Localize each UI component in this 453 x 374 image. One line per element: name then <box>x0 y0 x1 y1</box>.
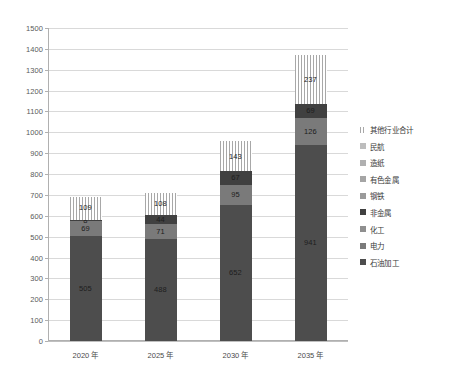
bar-segment-value-label: 69 <box>306 107 315 115</box>
bar-segment-value-label: 109 <box>79 204 92 212</box>
legend-item-label: 石油加工 <box>370 257 399 268</box>
plot-area: 0100200300400500600700800900100011001200… <box>48 28 348 341</box>
bar-segment-value-label: 95 <box>231 191 240 199</box>
legend-item[interactable]: 非金属 <box>360 207 413 218</box>
legend-item-label: 造纸 <box>370 157 384 168</box>
legend-item[interactable]: 有色金属 <box>360 174 413 185</box>
legend-item-label: 其他行业合计 <box>370 124 413 135</box>
chart-container: 0100200300400500600700800900100011001200… <box>0 0 453 374</box>
legend-swatch-icon <box>360 193 366 199</box>
legend-item-label: 钢铁 <box>370 190 384 201</box>
bar-stack[interactable]: 94112669237 <box>295 55 327 341</box>
bar-segment[interactable]: 71 <box>145 224 177 239</box>
bar-segment[interactable]: 126 <box>295 118 327 144</box>
bar-segment[interactable]: 143 <box>220 141 252 171</box>
bar-segment[interactable]: 44 <box>145 215 177 224</box>
legend-swatch-icon <box>360 226 366 232</box>
legend-swatch-icon <box>360 127 366 133</box>
bar-segment-value-label: 71 <box>156 228 165 236</box>
bar-segment-value-label: 237 <box>304 76 317 84</box>
x-axis-tick-label: 2025 年 <box>148 349 174 360</box>
gridline <box>48 341 348 342</box>
bar-segment[interactable]: 108 <box>145 193 177 216</box>
bar-segment-value-label: 126 <box>304 128 317 136</box>
bar-segment[interactable]: 8 <box>70 220 102 222</box>
y-axis-tick-mark <box>45 341 48 342</box>
legend-item[interactable]: 民航 <box>360 141 413 152</box>
bar-segment[interactable]: 67 <box>220 171 252 185</box>
legend-item[interactable]: 其他行业合计 <box>360 124 413 135</box>
bar-segment-value-label: 44 <box>156 216 165 224</box>
legend-item[interactable]: 钢铁 <box>360 190 413 201</box>
bars-layer: 2020 年5056981092025 年48871441082030 年652… <box>48 28 348 341</box>
x-axis-tick-label: 2035 年 <box>298 349 324 360</box>
bar-segment[interactable]: 941 <box>295 145 327 341</box>
bar-segment[interactable]: 69 <box>295 104 327 118</box>
legend-item[interactable]: 石油加工 <box>360 257 413 268</box>
legend-item[interactable]: 造纸 <box>360 157 413 168</box>
legend-swatch-icon <box>360 209 366 215</box>
bar-stack[interactable]: 505698109 <box>70 197 102 341</box>
bar-segment[interactable]: 237 <box>295 55 327 104</box>
legend-item[interactable]: 电力 <box>360 240 413 251</box>
bar-segment[interactable]: 505 <box>70 236 102 341</box>
bar-segment-value-label: 505 <box>79 285 92 293</box>
legend-swatch-icon <box>360 259 366 265</box>
legend-swatch-icon <box>360 176 366 182</box>
legend-item-label: 化工 <box>370 224 384 235</box>
bar-stack[interactable]: 4887144108 <box>145 193 177 341</box>
bar-segment-value-label: 143 <box>229 153 242 161</box>
legend-item-label: 非金属 <box>370 207 392 218</box>
legend-item-label: 有色金属 <box>370 174 399 185</box>
x-axis-tick-label: 2020 年 <box>73 349 99 360</box>
bar-segment-value-label: 67 <box>231 174 240 182</box>
bar-segment-value-label: 108 <box>154 200 167 208</box>
legend-swatch-icon <box>360 143 366 149</box>
chart-legend: 其他行业合计民航造纸有色金属钢铁非金属化工电力石油加工 <box>360 124 413 268</box>
legend-swatch-icon <box>360 160 366 166</box>
bar-segment[interactable]: 109 <box>70 197 102 220</box>
legend-item-label: 电力 <box>370 240 384 251</box>
bar-segment-value-label: 69 <box>81 225 90 233</box>
bar-segment-value-label: 941 <box>304 239 317 247</box>
bar-segment[interactable]: 488 <box>145 239 177 341</box>
bar-stack[interactable]: 6529567143 <box>220 141 252 341</box>
legend-item-label: 民航 <box>370 141 384 152</box>
legend-item[interactable]: 化工 <box>360 224 413 235</box>
bar-segment-value-label: 488 <box>154 286 167 294</box>
bar-segment[interactable]: 69 <box>70 221 102 235</box>
legend-swatch-icon <box>360 243 366 249</box>
bar-segment[interactable]: 652 <box>220 205 252 341</box>
bar-segment[interactable]: 95 <box>220 185 252 205</box>
x-axis-tick-label: 2030 年 <box>223 349 249 360</box>
bar-segment-value-label: 652 <box>229 269 242 277</box>
